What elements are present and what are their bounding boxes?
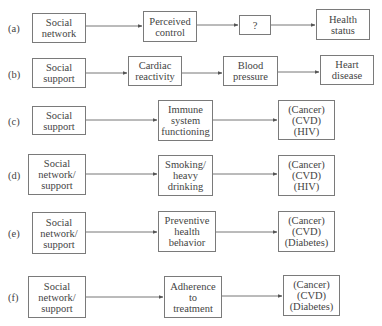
node-outcomes-cancer-cvd-diabetes: (Cancer) (CVD) (Diabetes) bbox=[283, 275, 340, 316]
row-label-a: (a) bbox=[8, 23, 20, 34]
row-label-b: (b) bbox=[8, 69, 20, 80]
node-social-network: Social network bbox=[32, 13, 86, 43]
node-cardiac-reactivity: Cardiac reactivity bbox=[128, 56, 182, 86]
node-adherence-to-treatment: Adherence to treatment bbox=[164, 276, 222, 318]
node-perceived-control: Perceived control bbox=[143, 11, 197, 42]
row-label-c: (c) bbox=[8, 116, 20, 127]
node-health-status: Health status bbox=[316, 9, 370, 40]
node-outcomes-cancer-cvd-diabetes: (Cancer) (CVD) (Diabetes) bbox=[278, 211, 335, 252]
node-outcomes-cancer-cvd-hiv: (Cancer) (CVD) (HIV) bbox=[278, 100, 335, 140]
node-blood-pressure: Blood pressure bbox=[223, 56, 278, 86]
row-label-f: (f) bbox=[8, 292, 19, 303]
row-label-d: (d) bbox=[8, 170, 20, 181]
node-social-network-support: Social network/ support bbox=[32, 212, 86, 254]
node-outcomes-cancer-cvd-hiv: (Cancer) (CVD) (HIV) bbox=[278, 155, 335, 196]
node-immune-system-functioning: Immune system functioning bbox=[158, 100, 213, 141]
node-heart-disease: Heart disease bbox=[320, 55, 374, 85]
node-unknown: ? bbox=[239, 15, 271, 35]
node-smoking-heavy-drinking: Smoking/ heavy drinking bbox=[158, 155, 213, 196]
node-preventive-health-behavior: Preventive health behavior bbox=[158, 211, 216, 252]
node-social-support: Social support bbox=[32, 106, 86, 135]
node-social-support: Social support bbox=[32, 58, 86, 88]
row-label-e: (e) bbox=[8, 228, 20, 239]
pathway-diagram: (a) Social network Perceived control ? H… bbox=[0, 0, 382, 326]
node-social-network-support: Social network/ support bbox=[28, 154, 86, 195]
node-social-network-support: Social network/ support bbox=[28, 276, 86, 318]
